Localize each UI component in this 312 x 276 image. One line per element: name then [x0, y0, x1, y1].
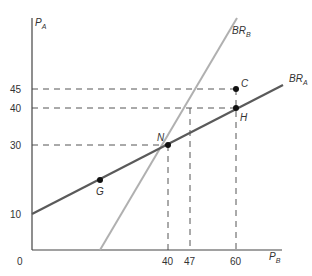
point-h [233, 105, 239, 111]
label-n: N [157, 132, 165, 143]
br-a-curve [32, 85, 283, 214]
y-tick-10: 10 [10, 209, 22, 220]
x-tick-60: 60 [230, 256, 242, 267]
x-axis-label: PB [269, 251, 281, 264]
y-tick-45: 45 [10, 84, 22, 95]
label-c: C [241, 78, 249, 89]
x-tick-40: 40 [162, 256, 174, 267]
guide-lines [32, 89, 236, 250]
label-br-a: BRA [289, 73, 308, 86]
x-tick-47: 47 [184, 256, 196, 267]
y-axis-label: PA [35, 17, 47, 30]
label-br-b: BRB [232, 25, 251, 38]
best-response-diagram: N C H G BRB BRA PA PB 45 40 30 10 0 40 4… [0, 0, 312, 276]
y-tick-30: 30 [10, 140, 22, 151]
point-c [233, 86, 239, 92]
y-tick-40: 40 [10, 103, 22, 114]
origin-label: 0 [17, 256, 23, 267]
point-n [165, 142, 171, 148]
label-h: H [240, 112, 248, 123]
label-g: G [96, 186, 104, 197]
point-g [97, 177, 103, 183]
